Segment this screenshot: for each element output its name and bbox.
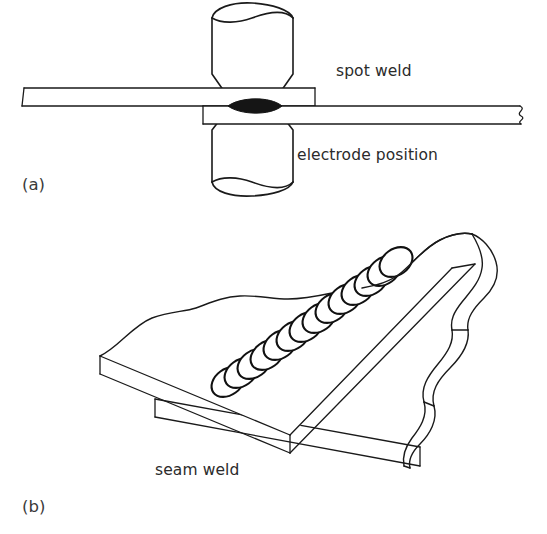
welding-figure: spot weld electrode position (a)	[0, 0, 547, 534]
panel-b-seam-weld: seam weld (b)	[22, 233, 497, 516]
welding-diagram-svg: spot weld electrode position (a)	[0, 0, 547, 534]
spot-weld-label: spot weld	[336, 62, 412, 80]
upper-electrode	[212, 3, 293, 102]
seam-weld-label: seam weld	[155, 461, 239, 479]
upper-sheet-isometric	[100, 233, 497, 468]
panel-b-label: (b)	[22, 497, 45, 516]
electrode-position-label: electrode position	[297, 146, 438, 164]
panel-a-spot-weld: spot weld electrode position (a)	[22, 3, 524, 196]
panel-a-label: (a)	[22, 175, 45, 194]
